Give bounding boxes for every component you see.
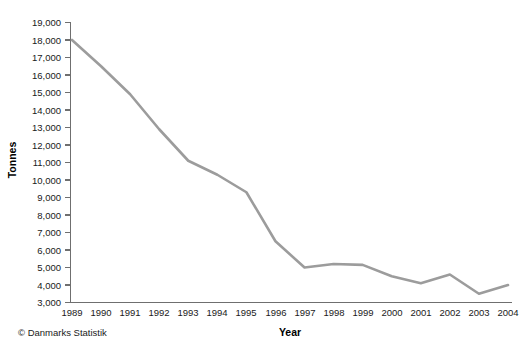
y-tick-label: 15,000: [32, 87, 61, 98]
y-tick-label: 12,000: [32, 140, 61, 151]
y-tick-label: 6,000: [37, 245, 61, 256]
y-axis-tick-labels: 19,000 18,000 17,000 16,000 15,000 14,00…: [32, 17, 61, 308]
x-tick-label: 1999: [352, 307, 373, 318]
x-tick-label: 2000: [381, 307, 402, 318]
y-tick-label: 8,000: [37, 210, 61, 221]
x-tick-label: 2002: [439, 307, 460, 318]
y-axis-title: Tonnes: [6, 142, 18, 179]
y-tick-label: 16,000: [32, 70, 61, 81]
y-tick-label: 11,000: [33, 157, 61, 168]
y-tick-label: 5,000: [37, 262, 61, 273]
x-tick-label: 2001: [410, 307, 431, 318]
y-tick-label: 18,000: [32, 35, 61, 46]
y-tick-label: 3,000: [37, 297, 61, 308]
x-tick-label: 1996: [265, 307, 286, 318]
line-chart: 19,000 18,000 17,000 16,000 15,000 14,00…: [0, 0, 524, 352]
x-tick-label: 1989: [61, 307, 82, 318]
x-tick-label: 1992: [148, 307, 169, 318]
x-tick-label: 1993: [177, 307, 198, 318]
x-tick-label: 2004: [497, 307, 518, 318]
y-tick-label: 10,000: [32, 175, 61, 186]
x-tick-label: 1997: [294, 307, 315, 318]
chart-background: [0, 0, 524, 352]
y-tick-label: 13,000: [32, 122, 61, 133]
x-axis-title: Year: [279, 326, 301, 338]
y-tick-label: 7,000: [37, 227, 61, 238]
x-tick-label: 1990: [90, 307, 111, 318]
chart-figure: 19,000 18,000 17,000 16,000 15,000 14,00…: [0, 0, 524, 352]
y-tick-label: 17,000: [32, 52, 61, 63]
x-tick-label: 1998: [323, 307, 344, 318]
x-tick-label: 2003: [468, 307, 489, 318]
x-tick-label: 1995: [235, 307, 256, 318]
x-tick-label: 1991: [119, 307, 140, 318]
x-tick-label: 1994: [206, 307, 227, 318]
y-tick-label: 19,000: [32, 17, 61, 28]
source-credit: © Danmarks Statistik: [18, 327, 107, 338]
y-tick-label: 9,000: [37, 192, 61, 203]
y-tick-label: 14,000: [32, 105, 61, 116]
y-tick-label: 4,000: [37, 280, 61, 291]
